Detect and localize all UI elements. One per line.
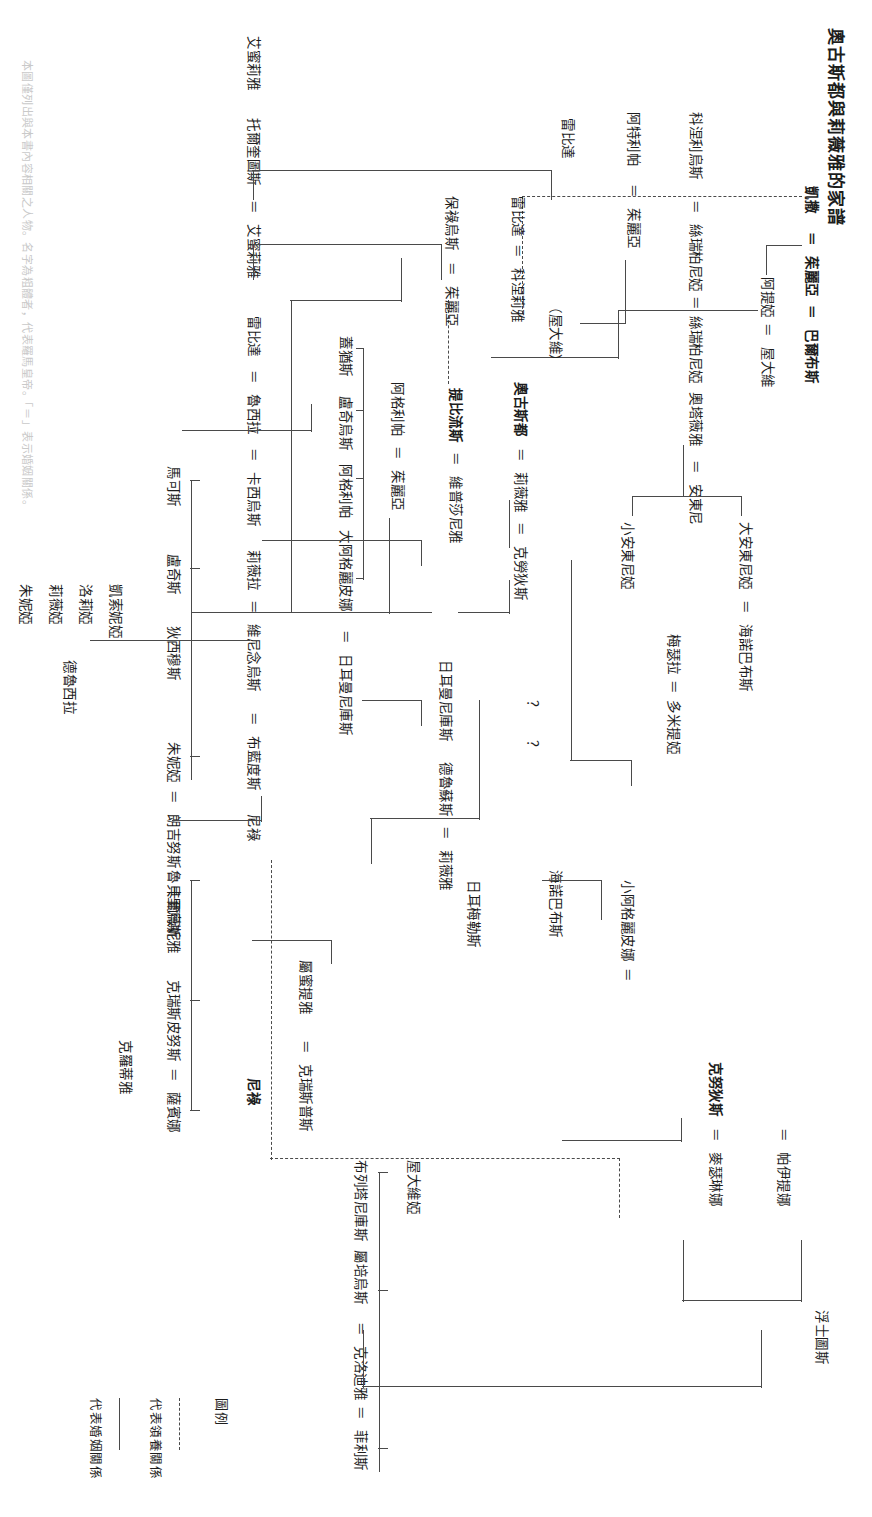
line-main-25 xyxy=(190,1000,200,1001)
node-rubellius-b: 屬培烏斯 xyxy=(354,1250,368,1304)
node-sabina: 薩賓娜 xyxy=(167,1092,181,1133)
node-unknown-1: ？ xyxy=(524,700,544,713)
node-livilla-2: 莉薇拉 xyxy=(247,550,261,591)
equals-sign-18: ＝ xyxy=(247,200,261,214)
line-main-34 xyxy=(401,258,402,302)
connector-h xyxy=(766,245,767,275)
footer-caption: 本圖僅列出與本書內容相關之人物。名字為粗體者，代表羅馬皇帝。「＝」表示婚姻關係。 xyxy=(20,60,36,511)
line-main-14 xyxy=(362,1386,762,1387)
node-paetina: 帕伊提娜 xyxy=(777,1152,791,1206)
node-drusus: 德魯蘇斯 xyxy=(439,762,453,816)
node-scribonia-2: 絲瑞柏尼婭 xyxy=(689,316,703,384)
node-cornelia: 科涅莉雅 xyxy=(511,268,525,322)
line-main-22 xyxy=(190,756,200,757)
node-messalla: 梅瑟拉 xyxy=(667,634,681,675)
equals-sign-26: ＝ xyxy=(299,1040,313,1054)
node-claudia-c: 克洛迪雅 xyxy=(354,1346,368,1400)
equals-sign-6: ＝ xyxy=(627,184,641,198)
connector-h-8 xyxy=(509,500,510,548)
line-main-1 xyxy=(571,560,572,760)
node-decimus: 狄西穆斯 xyxy=(167,626,181,680)
node-crispus: 克瑞斯普斯 xyxy=(299,1064,313,1132)
node-julia-atilius: 茱麗亞 xyxy=(627,208,641,249)
line-main-2 xyxy=(570,760,632,761)
line-main-27 xyxy=(379,1172,380,1472)
node-lepidus-2: 雷比達 xyxy=(511,196,525,237)
node-ahenobarbus: 海諾巴布斯 xyxy=(739,624,753,692)
node-caligula: 克努狄斯 xyxy=(709,1062,723,1116)
page-title: 奧古斯都與莉薇雅的家譜 xyxy=(825,28,850,226)
node-unknown-2: ？ xyxy=(524,740,544,753)
legend-dashed-sample xyxy=(179,1398,180,1450)
equals-sign-11: ＝ xyxy=(514,522,528,536)
connector-v-4 xyxy=(580,323,626,324)
line-main-28 xyxy=(378,1172,388,1173)
node-octavius-paren: （屋大維） xyxy=(549,300,563,368)
line-main-15 xyxy=(761,1330,762,1388)
adoption-line-5 xyxy=(619,1158,620,1218)
node-drusilla: 魯西拉 xyxy=(247,394,261,435)
family-tree-canvas: 奧古斯都與莉薇雅的家譜 凱撒 ＝ 茱麗亞 ＝ 巴爾布斯 阿提婭 ＝ 屋大維 科涅… xyxy=(0,0,872,1517)
connector-v-11 xyxy=(356,578,364,579)
node-caesar: 凱撒 xyxy=(805,186,819,213)
node-agrippa: 阿格利帕 xyxy=(391,382,405,436)
equals-sign-20: ＝ xyxy=(247,448,261,462)
node-cornelius: 科涅利烏斯 xyxy=(689,112,703,180)
equals-sign-19: ＝ xyxy=(247,370,261,384)
line-main-21 xyxy=(190,640,200,641)
line-main-12 xyxy=(801,1240,802,1302)
node-julia-agrippa: 茱麗亞 xyxy=(391,470,405,511)
line-main-31 xyxy=(192,612,292,613)
node-germanicus: 日耳曼尼庫斯 xyxy=(339,654,353,735)
node-lepidus-top: 雷比達 xyxy=(561,118,575,159)
connector-v-8 xyxy=(356,348,364,349)
line-main-48 xyxy=(331,940,332,964)
line-main-50 xyxy=(261,796,262,822)
line-main-42 xyxy=(311,404,312,432)
line-main-46 xyxy=(421,700,422,726)
node-julia-caesar: 茱麗亞 xyxy=(805,256,819,297)
node-brandus: 布藍度斯 xyxy=(247,736,261,790)
connector-h-5 xyxy=(683,445,684,497)
node-lollia: 洛莉婭 xyxy=(79,584,93,625)
node-atilius: 阿特利帕 xyxy=(627,112,641,166)
connector-h-2 xyxy=(618,310,619,358)
line-main-40 xyxy=(253,244,254,280)
connector-h-10 xyxy=(389,518,390,614)
line-main-5 xyxy=(370,818,480,819)
equals-sign-9: ＝ xyxy=(667,680,681,694)
node-lepida-2: 雷比達 xyxy=(247,316,261,357)
node-antonia-major: 大安東尼婭 xyxy=(739,522,753,590)
node-balbus: 巴爾布斯 xyxy=(805,329,819,383)
node-livilla: 莉薇雅 xyxy=(439,850,453,891)
line-main-6 xyxy=(371,818,372,864)
node-calvisia: 卡爾薇妮雅 xyxy=(167,886,181,954)
line-main-9 xyxy=(562,1140,682,1141)
node-junia-b: 朱妮婭 xyxy=(167,742,181,783)
node-octavius: 屋大維 xyxy=(761,347,775,388)
node-tiberius: 提比流斯 xyxy=(449,388,463,442)
connector-h-7 xyxy=(632,496,633,516)
equals-sign-29: ＝ xyxy=(354,1322,368,1336)
node-caesonia-2: 凱索妮婭 xyxy=(109,584,123,638)
node-caesonia: 麥瑟琳娜 xyxy=(709,1152,723,1206)
node-paulus: 保祿烏斯 xyxy=(445,196,459,250)
node-claudius: 克勞狄斯 xyxy=(514,546,528,600)
node-octavia-b: 屋大維婭 xyxy=(407,1160,421,1214)
legend-marriage-label: 代表婚姻關係 xyxy=(87,1398,106,1479)
line-main-4 xyxy=(479,700,480,820)
node-junilla: 朱妮婭 xyxy=(19,584,33,625)
line-main-39 xyxy=(441,244,442,280)
line-main-30 xyxy=(378,1448,388,1449)
node-nero-2: 尼祿 xyxy=(247,814,261,841)
legend-heading: 圖例 xyxy=(213,1398,232,1425)
node-livia: 莉薇雅 xyxy=(514,472,528,513)
line-main-13 xyxy=(683,1240,684,1302)
equals-sign-2: ＝ xyxy=(805,305,819,319)
node-britannicus: 布列塔尼庫斯 xyxy=(354,1160,368,1241)
adoption-line-4 xyxy=(270,1158,620,1159)
connector-v-7 xyxy=(292,612,432,613)
connector-h-11 xyxy=(363,348,364,580)
adoption-line-v xyxy=(522,196,802,197)
line-main-49 xyxy=(172,820,262,821)
